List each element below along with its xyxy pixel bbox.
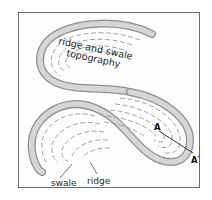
- label-point-a: A: [154, 122, 161, 132]
- label-point-a-prime: A′: [191, 155, 201, 165]
- label-swale: swale: [51, 178, 77, 188]
- lower-scroll-bars: [42, 114, 110, 164]
- swale-leader-line: [60, 164, 72, 178]
- meander-diagram: ridge and swale topography swale ridge A…: [0, 0, 212, 200]
- ridge-leader-line: [90, 162, 97, 174]
- label-ridge: ridge: [87, 176, 111, 186]
